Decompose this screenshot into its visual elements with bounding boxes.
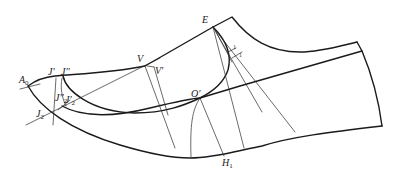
construction-O-1 xyxy=(200,98,224,156)
tick-label: 1 xyxy=(233,44,236,50)
label-A0: A0 xyxy=(18,74,29,87)
top-outline xyxy=(28,17,357,86)
tick-label: 1 xyxy=(239,52,242,58)
tongue-curve xyxy=(200,27,229,98)
construction-V-1 xyxy=(145,66,175,148)
construction-O-2 xyxy=(191,98,200,157)
label-J-prime: J' xyxy=(48,66,55,77)
label-V-prime: V' xyxy=(155,65,164,76)
label-J-dprime: J'' xyxy=(61,66,71,77)
shoe-pattern-diagram: 1 1 E V V' A0 J' J'' J''2 J'2 J2 O' H1 xyxy=(0,0,395,177)
label-H1: H1 xyxy=(221,157,233,170)
construction-V-2 xyxy=(147,66,154,67)
construction-E-3 xyxy=(213,27,295,132)
back-edge xyxy=(357,42,382,126)
vamp-curve xyxy=(63,76,200,113)
label-O-prime: O' xyxy=(191,88,201,99)
construction-E-1 xyxy=(213,27,244,148)
label-E: E xyxy=(201,14,208,25)
label-V: V xyxy=(137,53,145,64)
throat-line xyxy=(62,51,362,115)
